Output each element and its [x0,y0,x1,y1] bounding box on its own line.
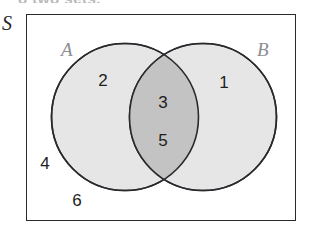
venn-circles-svg [0,0,310,230]
venn-diagram-figure: o two sets. S A B 2 3 1 5 4 6 [0,0,310,230]
element-a-only: 2 [93,72,113,89]
set-label-a: A [61,40,73,59]
element-outside-lower: 6 [67,192,87,209]
element-b-only: 1 [214,74,234,91]
element-intersection-bottom: 5 [153,132,173,149]
set-label-b: B [257,40,269,59]
element-intersection-top: 3 [153,94,173,111]
element-outside-upper: 4 [35,155,55,172]
